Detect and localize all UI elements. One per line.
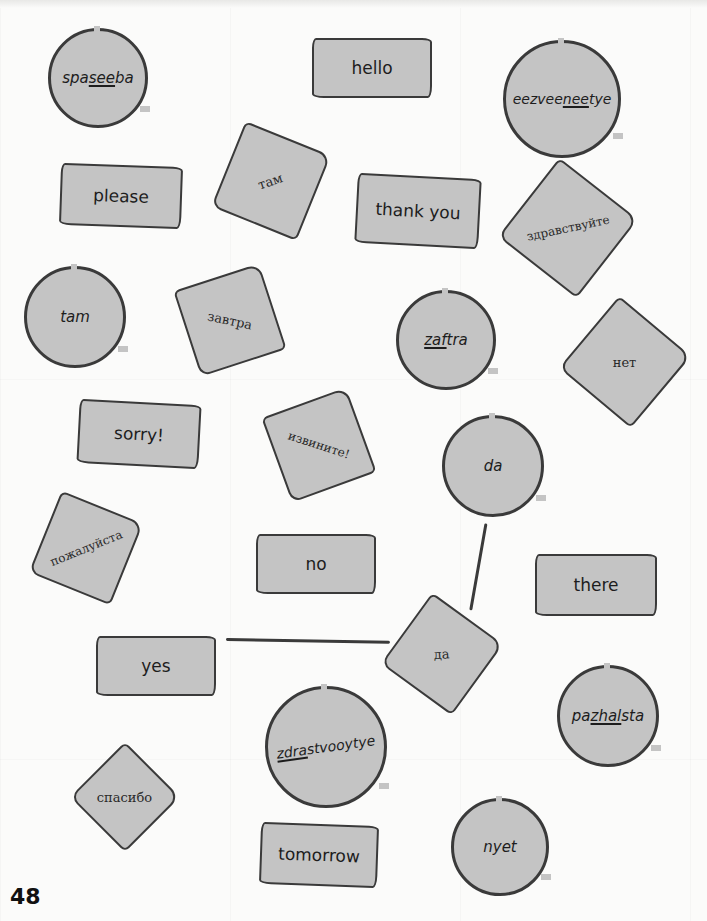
card-tomorrow[interactable]: tomorrow [259,822,379,888]
card-label: завтра [206,308,254,332]
card-nyet[interactable]: nyet [451,798,549,896]
card-there[interactable]: there [535,554,657,616]
card-label: no [305,554,326,574]
card-hello[interactable]: hello [312,38,432,98]
card-zdrastvooytye[interactable]: zdrastvooytye [265,686,387,808]
match-line-da-da [469,523,487,610]
card-label: pazhalsta [572,707,644,725]
card-spaseeba[interactable]: spaseeba [48,28,148,128]
card-sorry[interactable]: sorry! [76,399,201,469]
card-label: spaseeba [62,69,134,87]
card-label: пожалуйста [48,527,124,569]
card-label: there [574,575,619,595]
card-label: tomorrow [278,844,360,867]
card-label: eezveeneetye [513,91,612,107]
card-please[interactable]: please [59,163,183,229]
card-izvinite[interactable]: извините! [261,387,376,502]
card-zdravstvuyte[interactable]: здравствуйте [498,158,638,298]
card-tam[interactable]: tam [24,266,126,368]
card-label: da [484,457,503,475]
card-yes[interactable]: yes [96,636,216,696]
card-label: извините! [286,428,351,461]
card-label: nyet [483,838,517,856]
card-pazhalsta[interactable]: pazhalsta [557,665,659,767]
card-thank-you[interactable]: thank you [354,173,481,249]
card-eezveeneetye[interactable]: eezveeneetye [503,40,621,158]
card-label: там [257,170,285,192]
card-label: tam [60,308,90,326]
card-da[interactable]: da [442,415,544,517]
card-zavtra-ru[interactable]: завтра [173,263,286,376]
card-label: sorry! [114,423,165,446]
card-spasibo[interactable]: спасибо [70,742,180,852]
card-tam-ru[interactable]: там [211,121,331,241]
card-label: zaftra [424,331,468,349]
card-label: please [93,185,149,207]
match-line-yes-da [226,638,390,644]
card-label: здравствуйте [525,212,611,243]
card-label: thank you [375,199,461,223]
card-pozhaluysta[interactable]: пожалуйста [29,491,144,606]
card-zaftra[interactable]: zaftra [396,290,496,390]
card-label: спасибо [97,789,152,804]
card-label: hello [351,58,392,78]
card-net-ru[interactable]: нет [559,296,691,428]
card-da-ru[interactable]: да [381,593,504,716]
card-label: нет [613,355,637,370]
page-number: 48 [10,884,41,909]
card-no[interactable]: no [256,534,376,594]
card-label: zdrastvooytye [276,732,377,762]
top-text-strip [0,0,707,8]
card-label: да [434,646,451,662]
card-label: yes [141,656,170,676]
